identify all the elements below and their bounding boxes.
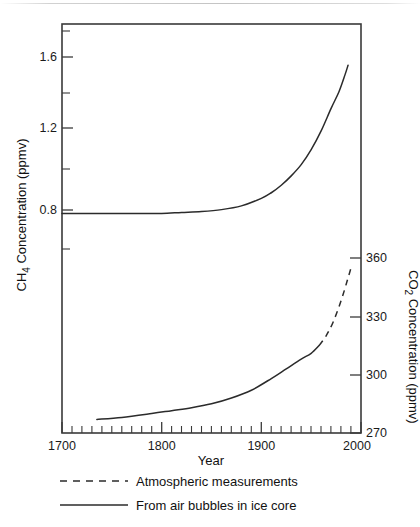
figure-co2-ch4-concentration: 1.6 1.2 0.8 CH4 Concentration (ppmv) 360… xyxy=(0,0,420,527)
right-axis-ticks xyxy=(350,258,361,433)
right-axis-title-rest: Concentration (ppmv) xyxy=(406,295,420,424)
svg-text:CO2 Concentration (ppmv): CO2 Concentration (ppmv) xyxy=(403,270,420,424)
legend: Atmospheric measurements From air bubble… xyxy=(60,474,298,513)
left-tick-label-1-6: 1.6 xyxy=(40,50,57,64)
left-tick-label-0-8: 0.8 xyxy=(40,203,57,217)
right-tick-label-270: 270 xyxy=(366,426,387,440)
right-tick-label-360: 360 xyxy=(366,251,387,265)
legend-label-ice-core: From air bubbles in ice core xyxy=(136,498,296,513)
left-axis-title-main: CH xyxy=(14,273,29,292)
left-axis-title-rest: Concentration (ppmv) xyxy=(14,139,29,268)
x-tick-label-1700: 1700 xyxy=(48,439,76,453)
x-tick-label-1800: 1800 xyxy=(148,439,176,453)
series-line-co2-ice-core xyxy=(97,346,319,420)
left-tick-label-1-2: 1.2 xyxy=(40,121,57,135)
concentration-line-chart: 1.6 1.2 0.8 CH4 Concentration (ppmv) 360… xyxy=(0,0,420,527)
x-axis-title: Year xyxy=(198,453,225,468)
right-axis-title: CO2 Concentration (ppmv) xyxy=(403,270,420,424)
legend-label-atmospheric-measurements: Atmospheric measurements xyxy=(136,474,298,489)
series-line-ch4-ice-core xyxy=(62,65,348,213)
x-tick-label-1900: 1900 xyxy=(247,439,275,453)
series-line-co2-atmospheric xyxy=(319,268,351,346)
x-tick-label-2000: 2000 xyxy=(343,439,371,453)
left-axis-ticks xyxy=(62,31,73,249)
right-axis-title-main: CO xyxy=(406,270,420,290)
plot-frame xyxy=(62,24,361,433)
right-tick-label-330: 330 xyxy=(366,310,387,324)
svg-text:CH4 Concentration (ppmv): CH4 Concentration (ppmv) xyxy=(14,139,32,292)
left-axis-title: CH4 Concentration (ppmv) xyxy=(14,139,32,292)
x-axis-ticks xyxy=(62,422,361,433)
right-tick-label-300: 300 xyxy=(366,368,387,382)
